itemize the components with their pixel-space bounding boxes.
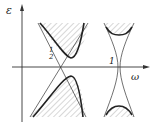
omega-axis-label: ω (131, 72, 139, 82)
half-denominator: 2 (49, 54, 53, 61)
epsilon-axis-label: ε (6, 5, 12, 16)
right-hourglass-right (120, 23, 134, 117)
epsilon-axis-arrow-icon (20, 4, 24, 11)
one-annotation: 1 (109, 57, 115, 66)
right-hourglass-left (104, 23, 118, 117)
omega-axis-arrow-icon (143, 65, 150, 69)
dispersion-diagram (0, 0, 157, 132)
half-annotation: 1 2 (49, 47, 53, 61)
